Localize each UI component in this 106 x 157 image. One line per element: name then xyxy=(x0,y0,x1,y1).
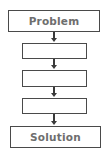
step-box-1 xyxy=(22,43,87,59)
problem-label: Problem xyxy=(29,15,80,27)
solution-box: Solution xyxy=(10,126,101,148)
step-box-3 xyxy=(22,98,87,114)
step-box-2 xyxy=(22,70,87,87)
solution-label: Solution xyxy=(30,131,81,143)
problem-box: Problem xyxy=(8,10,100,32)
